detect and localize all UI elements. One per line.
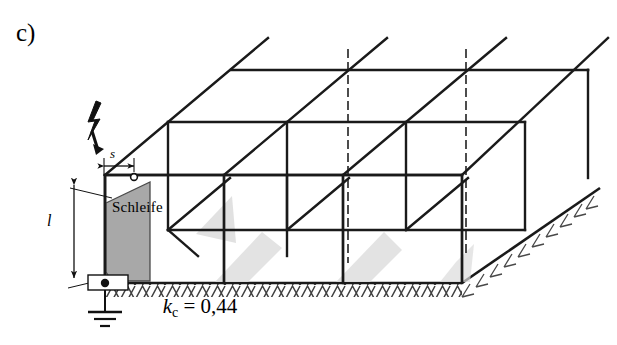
floor-diagonal-3 [287,178,349,230]
dimension-s-label: s [110,147,115,160]
dimension-l-label: l [47,213,51,229]
caption-value: 0,44 [201,294,238,318]
earth-node-dot [101,279,109,287]
caption-subscript: c [172,305,178,320]
ground-hatching-front [106,283,462,297]
loop-label: Schleife [112,200,163,215]
caption-symbol: k [163,294,172,318]
figure-canvas: c) Schleife s l kc = 0,44 [0,0,617,345]
floor-diagonal-4 [406,178,468,230]
lightning-bolt-icon [88,101,104,155]
ground-line-right [462,188,600,283]
ground-hatching-right [462,196,598,297]
roof-diagonal-2 [224,38,387,175]
loop-polygon [106,182,150,281]
roof-diagonal-3 [343,38,506,175]
roof-diagonal-4 [462,38,608,175]
figure-caption: kc = 0,44 [0,296,400,320]
roof-mesh [105,38,608,175]
lightning-protection-diagram [0,0,617,345]
interior-columns [168,122,406,256]
loop-area [105,175,150,283]
roof-diagonal-1 [105,38,268,175]
terminal-dot-icon [131,174,138,181]
caption-relation: = [183,294,195,318]
floor-diagonal-2 [168,230,198,256]
panel-label: c) [16,20,35,45]
right-side-face [525,70,588,230]
